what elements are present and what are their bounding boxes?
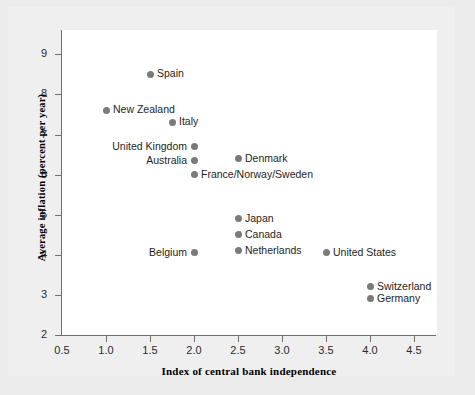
scatter-plot-figure: 23456789 0.51.01.52.02.53.03.54.04.5 Spa… xyxy=(0,0,475,395)
data-point xyxy=(147,71,154,78)
data-point-label: Switzerland xyxy=(377,280,431,292)
data-point xyxy=(235,247,242,254)
x-tick-mark xyxy=(326,336,327,342)
data-point xyxy=(235,231,242,238)
x-tick-label: 3.0 xyxy=(264,344,300,356)
data-point-label: Spain xyxy=(157,67,184,79)
x-axis-title: Index of central bank independence xyxy=(61,365,437,377)
data-point xyxy=(191,157,198,164)
data-point-label: Germany xyxy=(377,292,420,304)
data-point-label: United States xyxy=(333,246,396,258)
data-point xyxy=(169,119,176,126)
y-tick-mark xyxy=(55,215,62,216)
x-axis-line xyxy=(61,335,436,336)
x-tick-label: 2.5 xyxy=(220,344,256,356)
data-point-label: Canada xyxy=(245,228,282,240)
x-tick-label: 4.0 xyxy=(352,344,388,356)
data-point-label: Italy xyxy=(179,115,198,127)
x-tick-mark xyxy=(106,336,107,342)
x-tick-label: 1.0 xyxy=(88,344,124,356)
x-tick-label: 4.5 xyxy=(396,344,432,356)
data-point-label: Australia xyxy=(146,154,187,166)
data-point-label: France/Norway/Sweden xyxy=(201,168,313,180)
data-point xyxy=(235,155,242,162)
y-tick-label: 2 xyxy=(25,328,47,340)
y-tick-mark xyxy=(55,295,62,296)
data-point-label: Netherlands xyxy=(245,244,302,256)
x-tick-label: 1.5 xyxy=(132,344,168,356)
data-point xyxy=(191,249,198,256)
x-tick-label: 2.0 xyxy=(176,344,212,356)
data-point xyxy=(103,107,110,114)
data-point xyxy=(191,171,198,178)
x-tick-mark xyxy=(282,336,283,342)
y-axis-line xyxy=(61,30,62,336)
y-tick-mark xyxy=(55,54,62,55)
x-tick-mark xyxy=(194,336,195,342)
data-point-label: Belgium xyxy=(149,246,187,258)
x-tick-mark xyxy=(370,336,371,342)
data-point-label: New Zealand xyxy=(113,103,175,115)
x-tick-mark xyxy=(150,336,151,342)
y-tick-mark xyxy=(55,255,62,256)
x-tick-mark xyxy=(238,336,239,342)
data-point-label: United Kingdom xyxy=(112,140,187,152)
data-point xyxy=(367,295,374,302)
data-point-label: Japan xyxy=(245,212,274,224)
y-tick-mark xyxy=(55,335,62,336)
data-point xyxy=(191,143,198,150)
data-point xyxy=(323,249,330,256)
data-point xyxy=(235,215,242,222)
y-axis-title: Average inflation (percent per year) xyxy=(36,53,47,303)
x-tick-label: 3.5 xyxy=(308,344,344,356)
data-point xyxy=(367,283,374,290)
y-tick-mark xyxy=(55,175,62,176)
x-tick-mark xyxy=(414,336,415,342)
y-tick-mark xyxy=(55,135,62,136)
data-point-label: Denmark xyxy=(245,152,288,164)
x-tick-label: 0.5 xyxy=(44,344,80,356)
y-tick-mark xyxy=(55,94,62,95)
